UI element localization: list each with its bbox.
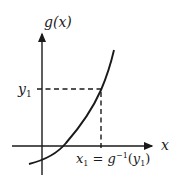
y1-tick-label: y1 (17, 81, 32, 99)
y-axis-label: g(x) (44, 14, 72, 30)
x-axis-label: x (161, 137, 169, 153)
x1-tick-label: x1 = g−1(y1) (76, 151, 150, 168)
inverse-function-diagram: g(x) x y1 x1 = g−1(y1) (0, 0, 178, 185)
